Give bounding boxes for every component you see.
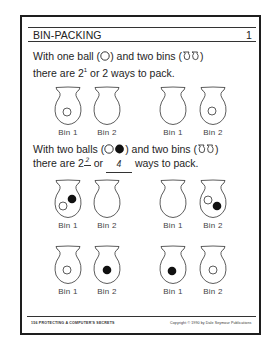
bin-2-label: Bin 2 — [193, 128, 233, 137]
bin-1-label: Bin 1 — [48, 287, 88, 296]
header-top-rule — [28, 27, 256, 28]
section1-line2: there are 21 or 2 ways to pack. — [33, 63, 175, 80]
text-fragment: ) — [200, 50, 204, 62]
bin-2-row1-right — [197, 86, 229, 126]
bin-1-row1-left — [52, 86, 84, 126]
bin-2-row2-right — [197, 179, 229, 219]
text-fragment: ) and two bins ( — [125, 143, 197, 155]
worksheet-title: BIN-PACKING — [33, 29, 102, 41]
bin-1-row2-left — [52, 179, 84, 219]
text-fragment: ) — [215, 143, 219, 155]
text-fragment: ways to pack. — [132, 157, 199, 169]
black-ball-icon — [114, 143, 125, 157]
two-bins-icon — [182, 50, 200, 64]
white-ball-icon — [63, 108, 71, 116]
section1-line1: With one ball () and two bins () — [33, 49, 203, 64]
bin-1-row1-right — [157, 86, 189, 126]
worksheet-number: 1 — [246, 29, 252, 41]
bin-1-label: Bin 1 — [48, 221, 88, 230]
two-bins-icon — [197, 143, 215, 157]
bin-2-label: Bin 2 — [87, 221, 127, 230]
bin-1-row3-right — [157, 245, 189, 285]
footer-page-title: 156 PROTECTING A COMPUTER'S SECRETS — [31, 321, 115, 325]
exponent-answer-blank[interactable]: 2 — [84, 157, 91, 166]
header-bottom-rule — [28, 41, 256, 42]
footer-copyright: Copyright © 1990 by Dale Seymour Publica… — [170, 321, 251, 325]
bin-2-row2-left — [91, 179, 123, 219]
text-fragment: With one ball ( — [33, 50, 100, 62]
bin-2-label: Bin 2 — [193, 221, 233, 230]
bin-2-label: Bin 2 — [87, 287, 127, 296]
text-fragment: With two balls ( — [33, 143, 104, 155]
bin-1-label: Bin 1 — [153, 287, 193, 296]
section2-line2: there are 22 or 4 ways to pack. — [33, 156, 199, 173]
bin-1-label: Bin 1 — [153, 128, 193, 137]
text-fragment: or — [91, 157, 106, 169]
text-fragment: or 2 ways to pack. — [87, 67, 175, 79]
bin-1-label: Bin 1 — [48, 128, 88, 137]
bin-2-row3-left — [91, 245, 123, 285]
section2-line1: With two balls () and two bins () — [33, 142, 218, 157]
bin-2-row3-right — [197, 245, 229, 285]
white-ball-icon — [100, 50, 110, 64]
white-ball-icon — [104, 143, 114, 157]
text-fragment: there are 2 — [33, 157, 84, 169]
bin-2-label: Bin 2 — [87, 128, 127, 137]
text-fragment: there are 2 — [33, 67, 84, 79]
bin-2-label: Bin 2 — [193, 287, 233, 296]
footer-rule — [27, 316, 256, 317]
bin-1-row2-right — [157, 179, 189, 219]
bin-1-label: Bin 1 — [153, 221, 193, 230]
text-fragment: ) and two bins ( — [110, 50, 182, 62]
bin-2-row1-left — [91, 86, 123, 126]
bin-1-row3-left — [52, 245, 84, 285]
ways-answer-blank[interactable]: 4 — [106, 161, 132, 173]
